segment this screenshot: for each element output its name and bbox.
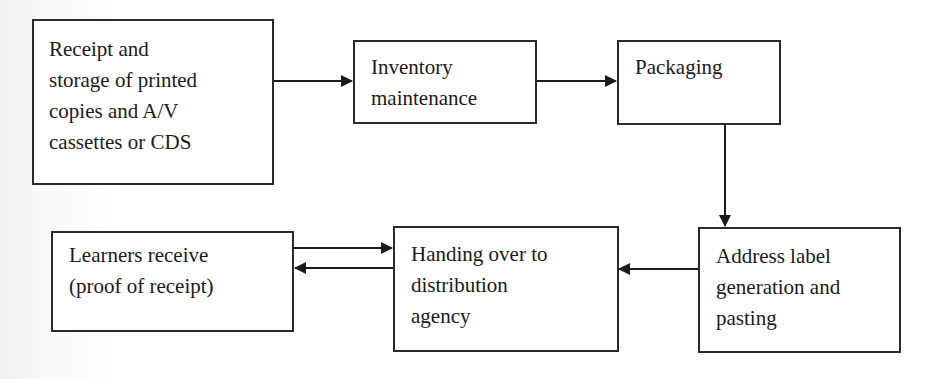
node-learners-receive: Learners receive (proof of receipt)	[51, 231, 294, 332]
node-label: Learners receive (proof of receipt)	[69, 240, 214, 302]
node-label: Inventory maintenance	[371, 52, 477, 114]
node-receipt-storage: Receipt and storage of printed copies an…	[32, 19, 274, 185]
node-label: Address label generation and pasting	[716, 241, 840, 334]
node-inventory-maintenance: Inventory maintenance	[353, 40, 537, 124]
node-packaging: Packaging	[617, 40, 781, 125]
node-label: Handing over to distribution agency	[411, 239, 547, 332]
node-address-label: Address label generation and pasting	[698, 227, 901, 353]
node-label: Receipt and storage of printed copies an…	[49, 34, 197, 158]
node-handing-over: Handing over to distribution agency	[393, 226, 619, 352]
node-label: Packaging	[635, 52, 722, 83]
